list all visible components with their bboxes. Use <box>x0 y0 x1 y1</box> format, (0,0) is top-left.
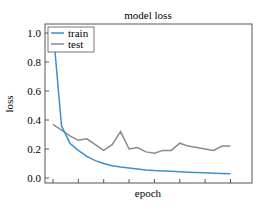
y-tick-label: 0.4 <box>27 114 41 126</box>
x-axis-label: epoch <box>135 187 162 199</box>
x-axis <box>53 179 230 183</box>
chart-title: model loss <box>124 9 171 21</box>
y-tick-label: 0.6 <box>27 85 41 97</box>
legend: train test <box>48 27 94 52</box>
legend-test-label: test <box>68 38 83 50</box>
test-series-line <box>53 124 230 153</box>
y-tick-label: 0.2 <box>27 143 41 155</box>
y-tick-label: 0.0 <box>27 172 41 184</box>
y-axis-label: loss <box>3 95 15 112</box>
loss-chart: model loss 0.00.20.40.60.81.0 epoch loss… <box>0 0 264 213</box>
y-tick-label: 0.8 <box>27 56 41 68</box>
y-tick-label: 1.0 <box>27 27 41 39</box>
y-axis: 0.00.20.40.60.81.0 <box>27 27 49 184</box>
